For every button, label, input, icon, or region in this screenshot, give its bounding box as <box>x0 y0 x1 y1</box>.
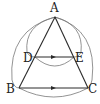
label-C: C <box>88 82 97 96</box>
arc-B-C <box>19 88 88 97</box>
label-B: B <box>6 82 15 96</box>
label-D: D <box>23 51 33 65</box>
arc-D-E <box>35 57 74 66</box>
arrow-DE-icon <box>51 55 56 59</box>
triangle-diagram: A D E B C <box>0 0 100 104</box>
arc-A-B <box>12 17 55 88</box>
label-A: A <box>49 1 59 15</box>
arrow-BC-icon <box>51 86 56 90</box>
label-E: E <box>75 51 84 65</box>
